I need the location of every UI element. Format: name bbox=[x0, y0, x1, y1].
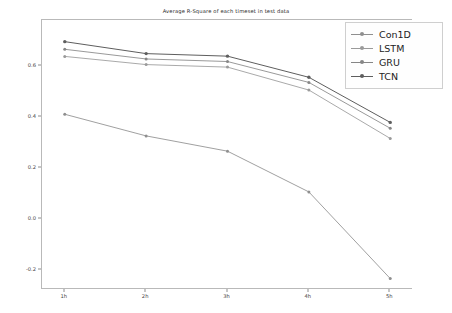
legend-item-0[interactable]: Con1D bbox=[351, 27, 437, 41]
series-line-lstm bbox=[65, 56, 390, 138]
data-point bbox=[63, 113, 66, 116]
data-point bbox=[145, 134, 148, 137]
data-point bbox=[307, 76, 310, 79]
data-point bbox=[389, 127, 392, 130]
data-point bbox=[226, 60, 229, 63]
y-axis-tick-label: 0.2 bbox=[28, 164, 36, 170]
data-point bbox=[389, 121, 392, 124]
data-point bbox=[307, 89, 310, 92]
y-axis-tick-label: -0.2 bbox=[26, 266, 36, 272]
x-axis-tick-label: 5h bbox=[386, 293, 393, 299]
data-point bbox=[226, 150, 229, 153]
data-point bbox=[144, 52, 147, 55]
data-point bbox=[145, 57, 148, 60]
legend-line-icon bbox=[351, 48, 373, 49]
data-point bbox=[145, 63, 148, 66]
legend-label: LSTM bbox=[379, 43, 404, 54]
data-point bbox=[63, 40, 66, 43]
data-point bbox=[226, 54, 229, 57]
y-axis-tick-label: 0.0 bbox=[28, 215, 36, 221]
legend-label: TCN bbox=[379, 71, 398, 82]
data-point bbox=[307, 81, 310, 84]
x-axis-tick-label: 4h bbox=[305, 293, 312, 299]
data-point bbox=[389, 137, 392, 140]
data-point bbox=[63, 48, 66, 51]
legend-item-3[interactable]: TCN bbox=[351, 69, 437, 83]
legend-line-icon bbox=[351, 34, 373, 35]
y-axis-tick-label: 0.4 bbox=[28, 113, 36, 119]
series-line-con1d bbox=[65, 114, 390, 278]
data-point bbox=[63, 55, 66, 58]
chart-figure: Average R-Square of each timeset in test… bbox=[0, 0, 452, 313]
series-line-tcn bbox=[65, 42, 390, 123]
data-point bbox=[226, 66, 229, 69]
legend-line-icon bbox=[351, 62, 373, 63]
chart-title: Average R-Square of each timeset in test… bbox=[0, 8, 452, 14]
legend-item-1[interactable]: LSTM bbox=[351, 41, 437, 55]
x-axis-tick-label: 3h bbox=[223, 293, 230, 299]
x-axis-tick-label: 2h bbox=[142, 293, 149, 299]
chart-legend[interactable]: Con1D LSTM GRU TCN bbox=[345, 22, 443, 89]
data-point bbox=[307, 190, 310, 193]
x-axis-tick-label: 1h bbox=[60, 293, 67, 299]
y-axis-tick-label: 0.6 bbox=[28, 62, 36, 68]
legend-label: Con1D bbox=[379, 29, 411, 40]
data-point bbox=[389, 277, 392, 280]
legend-label: GRU bbox=[379, 57, 400, 68]
legend-item-2[interactable]: GRU bbox=[351, 55, 437, 69]
legend-line-icon bbox=[351, 76, 373, 77]
